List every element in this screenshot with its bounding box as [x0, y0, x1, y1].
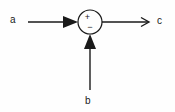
arrowhead-b-solid-triangle — [84, 34, 96, 49]
minus-sign-label: − — [87, 22, 92, 32]
signal-label-a: a — [10, 15, 16, 25]
diagram-canvas: + − a b c — [0, 0, 175, 112]
signal-label-b: b — [85, 96, 91, 106]
arrowhead-a-solid-triangle — [63, 16, 78, 28]
plus-sign-label: + — [85, 12, 90, 22]
signal-label-c: c — [157, 16, 162, 26]
